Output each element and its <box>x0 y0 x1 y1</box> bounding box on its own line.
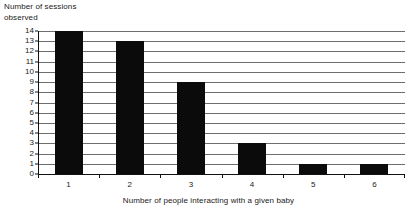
x-tick-mark-2 <box>160 174 161 178</box>
x-tick-label-6: 6 <box>372 180 376 190</box>
y-tick-label-3: 3 <box>30 139 34 147</box>
x-tick-label-1: 1 <box>66 180 70 190</box>
x-tick-mark-3 <box>222 174 223 178</box>
x-tick-mark-4 <box>283 174 284 178</box>
y-axis-title: Number of sessions observed <box>4 2 77 23</box>
y-tick-label-14: 14 <box>25 27 34 35</box>
x-axis-tick-labels: 123456 <box>38 180 405 192</box>
x-tick-label-4: 4 <box>250 180 254 190</box>
x-axis-title: Number of people interacting with a give… <box>0 196 417 206</box>
x-tick-label-5: 5 <box>311 180 315 190</box>
y-tick-label-5: 5 <box>30 119 34 127</box>
y-axis-line <box>38 31 39 174</box>
x-tick-label-2: 2 <box>128 180 132 190</box>
x-tick-mark-5 <box>344 174 345 178</box>
bar-4 <box>238 143 266 174</box>
plot-area: 14131211109876543210 <box>38 31 405 174</box>
x-tick-mark-6 <box>404 174 405 178</box>
y-tick-label-1: 1 <box>30 160 34 168</box>
bar-series <box>38 31 405 174</box>
bar-1 <box>55 31 83 174</box>
y-tick-label-13: 13 <box>25 37 34 45</box>
y-tick-label-9: 9 <box>30 78 34 86</box>
x-tick-label-3: 3 <box>189 180 193 190</box>
bar-5 <box>299 164 327 174</box>
y-tick-label-8: 8 <box>30 88 34 96</box>
x-tick-mark-1 <box>99 174 100 178</box>
y-tick-label-7: 7 <box>30 99 34 107</box>
bar-2 <box>116 41 144 174</box>
y-tick-label-4: 4 <box>30 129 34 137</box>
y-tick-label-6: 6 <box>30 109 34 117</box>
y-tick-label-12: 12 <box>25 47 34 55</box>
x-axis-ticks <box>38 174 405 179</box>
y-tick-label-0: 0 <box>30 170 34 178</box>
bar-6 <box>360 164 388 174</box>
bar-chart: Number of sessions observed 141312111098… <box>0 0 417 216</box>
y-tick-label-10: 10 <box>25 68 34 76</box>
y-tick-label-11: 11 <box>26 58 34 66</box>
x-tick-mark-0 <box>38 174 39 178</box>
y-tick-label-2: 2 <box>30 150 34 158</box>
bar-3 <box>177 82 205 174</box>
